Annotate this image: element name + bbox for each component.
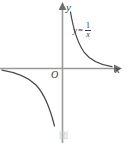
curve-branch-quadrant-i — [71, 12, 113, 67]
coordinate-plot — [0, 0, 127, 143]
y-axis-label: y — [66, 2, 71, 13]
origin-label: O — [51, 70, 58, 80]
x-axis-label: x — [115, 64, 120, 75]
x-axis — [0, 65, 122, 73]
fraction-numerator: 1 — [85, 22, 91, 30]
equation-equals-sign: = — [78, 26, 83, 35]
curve-equation-label: y = 1 x — [73, 22, 91, 39]
equation-left-side: y — [73, 26, 77, 35]
hyperbola-figure: y x O y = 1 x 图 — [0, 0, 127, 143]
fraction-denominator: x — [85, 31, 91, 39]
y-axis — [59, 2, 67, 143]
equation-fraction: 1 x — [85, 22, 91, 39]
curve-branch-quadrant-iii — [2, 70, 55, 126]
figure-caption: 图 — [0, 131, 127, 143]
